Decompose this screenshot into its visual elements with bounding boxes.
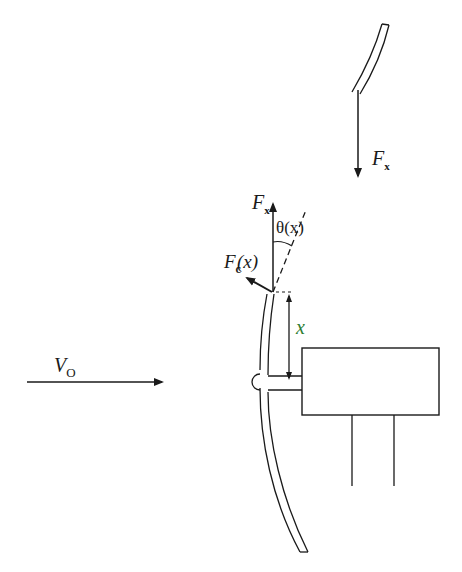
fc-label: Fc(x) — [224, 252, 258, 271]
fx-top-label-main: F — [372, 147, 384, 169]
fx-top-label-sub: x — [384, 160, 390, 172]
fx-mid-label-main: F — [252, 191, 264, 213]
v0-label-sub: O — [66, 365, 75, 380]
v0-label-main: V — [54, 354, 66, 376]
fx-top-label: Fx — [372, 148, 390, 168]
x-dimension-label: x — [296, 317, 305, 337]
nacelle — [302, 348, 439, 415]
theta-label: θ(x) — [276, 219, 304, 236]
upper-blade-segment — [352, 24, 389, 94]
fc-label-sub: c — [236, 262, 241, 276]
fx-mid-label: Fx — [252, 192, 270, 212]
blade-force-diagram — [0, 0, 462, 572]
fc-arrow — [247, 278, 272, 292]
fc-label-main: F — [224, 251, 236, 272]
fx-mid-label-sub: x — [264, 204, 270, 216]
theta-arc — [273, 242, 292, 247]
hub — [252, 374, 260, 390]
tower — [352, 415, 394, 486]
v0-label: VO — [54, 355, 76, 375]
x-dimension-label-text: x — [296, 316, 305, 338]
theta-label-text: θ(x) — [276, 218, 304, 237]
shaft — [268, 376, 302, 390]
